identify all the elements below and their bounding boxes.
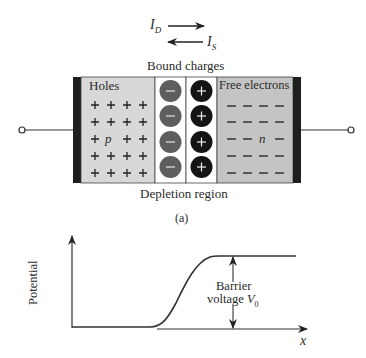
drift-current-label: ID bbox=[150, 17, 161, 35]
figure-caption: (a) bbox=[175, 211, 188, 226]
left-terminal-icon[interactable] bbox=[19, 127, 25, 133]
right-terminal-icon[interactable] bbox=[348, 127, 354, 133]
barrier-label-line2: voltage V0 bbox=[207, 292, 259, 309]
x-axis-label: x bbox=[300, 333, 306, 349]
n-contact bbox=[293, 77, 301, 183]
potential-curve bbox=[72, 256, 296, 327]
holes-label: Holes bbox=[89, 78, 119, 94]
pn-junction-diagram bbox=[0, 0, 366, 358]
free-electrons-label: Free electrons bbox=[219, 78, 289, 93]
y-axis-label: Potential bbox=[26, 261, 41, 305]
p-type-label: p bbox=[105, 131, 112, 147]
p-contact bbox=[73, 77, 81, 183]
depletion-region-label: Depletion region bbox=[140, 186, 228, 202]
bound-charges-label: Bound charges bbox=[147, 58, 224, 74]
n-type-label: n bbox=[259, 131, 266, 147]
diffusion-current-label: IS bbox=[207, 34, 216, 52]
